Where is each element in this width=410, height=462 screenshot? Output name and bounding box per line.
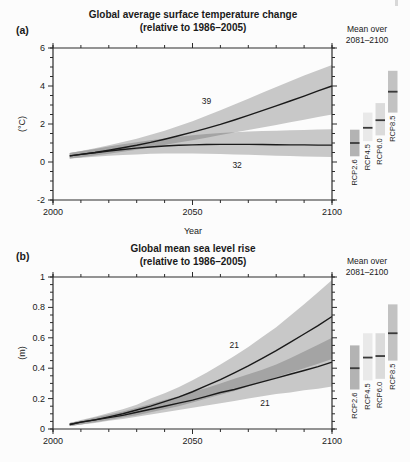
y-tick-label: 4	[40, 81, 45, 91]
page-edge-artifact	[395, 0, 398, 6]
panel-a-sidebar-header-line2: 2081–2100	[332, 35, 402, 46]
rcp-bar-label-RCP4.5: RCP4.5	[363, 383, 372, 409]
x-tick-label: 2000	[43, 207, 63, 217]
y-tick-label: 0	[40, 157, 45, 167]
panel-b-label: (b)	[16, 250, 29, 262]
rcp-mean-mark-RCP8.5	[388, 91, 398, 93]
panel-b-y-axis-label: (m)	[17, 346, 27, 360]
x-tick-label: 2050	[182, 436, 202, 446]
y-tick-label: 1	[40, 272, 45, 282]
rcp-mean-mark-RCP4.5	[363, 127, 373, 129]
rcp-bar-label-RCP4.5: RCP4.5	[363, 144, 372, 170]
y-tick-label: 0	[40, 424, 45, 434]
rcp-range-bar-RCP4.5	[363, 113, 373, 142]
panel-b-sidebar-header-line2: 2081–2100	[332, 267, 402, 278]
ipcc-projections-figure: 200020502100-202463932RCP2.6RCP4.5RCP6.0…	[0, 0, 410, 462]
y-tick-label: 0.6	[32, 333, 45, 343]
rcp-mean-mark-RCP6.0	[376, 119, 386, 121]
panel-a-label: (a)	[16, 24, 29, 36]
panel-temperature: 200020502100-202463932RCP2.6RCP4.5RCP6.0…	[37, 43, 398, 217]
rcp-mean-mark-RCP4.5	[363, 357, 373, 359]
y-tick-label: 0.2	[32, 394, 45, 404]
rcp-bar-label-RCP6.0: RCP6.0	[375, 138, 384, 164]
rcp-mean-mark-RCP2.6	[350, 367, 360, 369]
rcp-bar-label-RCP8.5: RCP8.5	[388, 364, 397, 390]
rcp-bar-label-RCP6.0: RCP6.0	[375, 382, 384, 408]
panel-a-sidebar-header-line1: Mean over	[332, 24, 402, 35]
panel-a-x-axis-label: Year	[53, 226, 333, 236]
rcp-bar-label-RCP8.5: RCP8.5	[388, 116, 397, 142]
panel-b-sidebar-header-line1: Mean over	[332, 256, 402, 267]
rcp-range-bar-RCP6.0	[376, 103, 386, 135]
panel-a-sidebar-header: Mean over 2081–2100	[332, 24, 402, 46]
y-tick-label: 0.4	[32, 363, 45, 373]
y-tick-label: 0.8	[32, 302, 45, 312]
rcp-bar-label-RCP2.6: RCP2.6	[350, 392, 359, 418]
rcp-mean-mark-RCP6.0	[376, 355, 386, 357]
panel-b-title-line2: (relative to 1986–2005)	[43, 255, 343, 268]
panel-b-title-line1: Global mean sea level rise	[43, 242, 343, 255]
model-count-annotation: 21	[230, 340, 240, 350]
x-tick-label: 2000	[43, 436, 63, 446]
rcp-mean-mark-RCP2.6	[350, 142, 360, 144]
x-tick-label: 2050	[182, 207, 202, 217]
rcp-mean-mark-RCP8.5	[388, 332, 398, 334]
model-count-annotation: 21	[260, 398, 270, 408]
model-count-annotation: 39	[202, 96, 212, 106]
x-tick-label: 2100	[322, 207, 342, 217]
x-tick-label: 2100	[322, 436, 342, 446]
panel-sea-level: 20002050210000.20.40.60.812121RCP2.6RCP4…	[32, 272, 397, 446]
panel-a-y-axis-label: (°C)	[17, 116, 27, 132]
y-tick-label: -2	[37, 195, 45, 205]
panel-a-title: Global average surface temperature chang…	[43, 8, 343, 34]
panel-a-title-line1: Global average surface temperature chang…	[43, 8, 343, 21]
panel-b-sidebar-header: Mean over 2081–2100	[332, 256, 402, 278]
y-tick-label: 6	[40, 43, 45, 53]
rcp-bar-label-RCP2.6: RCP2.6	[350, 159, 359, 185]
panel-a-title-line2: (relative to 1986–2005)	[43, 21, 343, 34]
model-count-annotation: 32	[232, 160, 242, 170]
panel-b-title: Global mean sea level rise (relative to …	[43, 242, 343, 268]
y-tick-label: 2	[40, 119, 45, 129]
